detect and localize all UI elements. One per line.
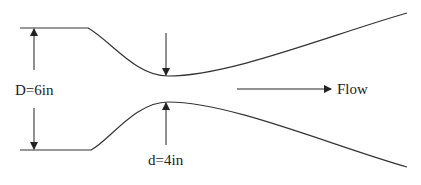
inlet-diameter-label: D=6in [15,82,54,98]
upper-wall-contour [20,13,407,76]
throat-diameter-label: d=4in [148,152,184,168]
lower-wall-contour [20,102,407,167]
nozzle-diagram: D=6in d=4in Flow [0,0,421,185]
flow-label: Flow [337,81,368,97]
